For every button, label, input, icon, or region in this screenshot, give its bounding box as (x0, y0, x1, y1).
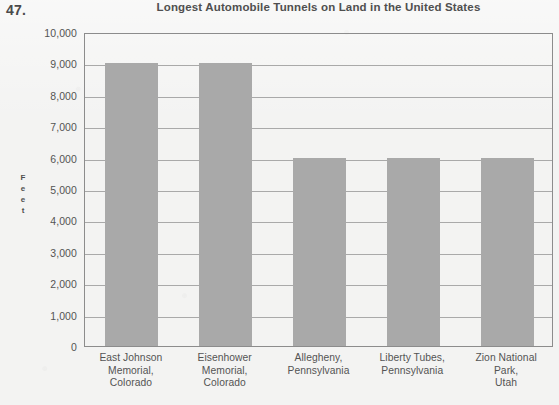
y-axis-tick-label: 4,000 (15, 215, 77, 227)
x-axis-category-label-line: Allegheny, (272, 352, 366, 365)
y-axis-tick-label: 5,000 (15, 184, 77, 196)
x-axis-category-label-line: Pennsylvania (365, 365, 459, 378)
y-axis-tick-label: 0 (15, 341, 77, 353)
bar (387, 158, 440, 346)
y-axis-tick-label: 7,000 (15, 121, 77, 133)
bar (105, 63, 158, 346)
x-axis-category-label: East JohnsonMemorial,Colorado (84, 352, 178, 390)
y-axis-tick-label: 8,000 (15, 90, 77, 102)
x-axis-category-label: Allegheny,Pennsylvania (272, 352, 366, 377)
x-axis-category-label-line: Liberty Tubes, (365, 352, 459, 365)
question-number: 47. (6, 2, 26, 18)
x-axis-category-label: Zion NationalPark,Utah (459, 352, 553, 390)
x-axis-category-label-line: Zion National (459, 352, 553, 365)
y-axis-title-letter: F (17, 172, 29, 183)
bar (293, 158, 346, 346)
y-axis-tick-label: 6,000 (15, 153, 77, 165)
x-axis-category-label-line: Eisenhower (178, 352, 272, 365)
x-axis-category-label: EisenhowerMemorial,Colorado (178, 352, 272, 390)
x-axis-category-label-line: Pennsylvania (272, 365, 366, 378)
x-axis-category-label-line: Memorial, (84, 365, 178, 378)
x-axis-category-label-line: Colorado (178, 377, 272, 390)
y-axis-tick-label: 2,000 (15, 278, 77, 290)
x-axis-category-label-line: East Johnson (84, 352, 178, 365)
chart-figure: 47. Longest Automobile Tunnels on Land i… (0, 0, 559, 405)
x-axis-category-label-line: Utah (459, 377, 553, 390)
x-axis-category-label-line: Park, (459, 365, 553, 378)
y-axis-tick-label: 3,000 (15, 247, 77, 259)
x-axis-category-label: Liberty Tubes,Pennsylvania (365, 352, 459, 377)
y-axis-tick-label: 10,000 (15, 27, 77, 39)
y-axis-tick-label: 1,000 (15, 310, 77, 322)
plot-area (84, 33, 553, 347)
x-axis-category-label-line: Colorado (84, 377, 178, 390)
x-axis-category-label-line: Memorial, (178, 365, 272, 378)
y-axis-tick-label: 9,000 (15, 58, 77, 70)
bar (481, 158, 534, 346)
chart-title: Longest Automobile Tunnels on Land in th… (84, 1, 553, 13)
y-axis-title-letter: t (17, 205, 29, 216)
bar (199, 63, 252, 346)
